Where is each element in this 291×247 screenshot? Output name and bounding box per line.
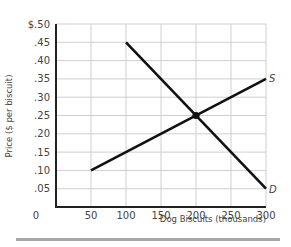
y-tick-label: $.50: [28, 19, 50, 30]
equilibrium-point: [192, 112, 199, 119]
y-tick-label: .25: [34, 110, 50, 121]
y-axis-title: Price ($ per biscuit): [4, 75, 14, 158]
x-axis-title: Dog Biscuits (thousands): [160, 214, 266, 224]
supply-demand-chart: $.50.45.40.35.30.25.20.15.10.05 05010015…: [0, 0, 291, 247]
y-tick-label: .40: [34, 55, 50, 66]
y-tick-label: .05: [34, 183, 50, 194]
y-tick-label: .20: [34, 128, 50, 139]
y-tick-label: .15: [34, 147, 50, 158]
y-tick-label: .35: [34, 73, 50, 84]
supply-label: S: [269, 73, 276, 84]
x-tick-label: 0: [33, 210, 39, 221]
y-tick-label: .45: [34, 37, 50, 48]
grid: [56, 24, 266, 207]
demand-label: D: [269, 184, 277, 195]
y-tick-label: .10: [34, 165, 50, 176]
y-axis-ticks: $.50.45.40.35.30.25.20.15.10.05: [28, 19, 50, 195]
x-tick-label: 100: [116, 210, 135, 221]
labels: SD: [269, 73, 277, 195]
bottom-rule: [16, 238, 280, 241]
supply-curve: [91, 79, 266, 170]
x-tick-label: 50: [85, 210, 98, 221]
y-tick-label: .30: [34, 92, 50, 103]
